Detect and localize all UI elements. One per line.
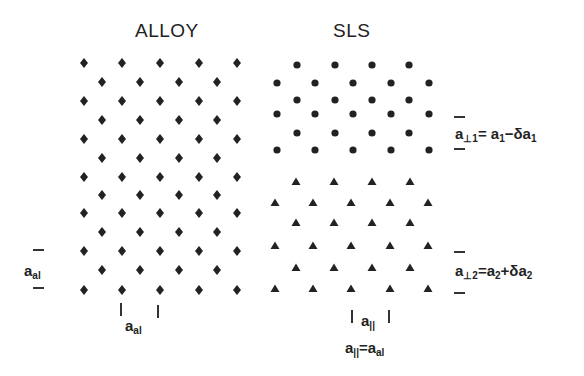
alloy-spacing-right-tick (157, 305, 159, 318)
diamond-atom (233, 96, 241, 106)
circle-atom (368, 129, 375, 136)
diamond-atom (98, 77, 106, 87)
diamond-atom (175, 227, 183, 237)
alloy-spacing-label: aal (125, 318, 142, 336)
triangle-atom (424, 285, 433, 293)
diamond-atom (213, 115, 221, 125)
sls-spacing-left-tick (351, 310, 353, 323)
diamond-atom (175, 77, 183, 87)
diamond-atom (175, 115, 183, 125)
circle-atom (387, 110, 394, 117)
circle-atom (368, 96, 375, 103)
diamond-atom (156, 208, 164, 218)
triangle-atom (347, 199, 356, 207)
diamond-atom (213, 153, 221, 163)
triangle-atom (309, 285, 318, 293)
triangle-atom (309, 199, 318, 207)
triangle-atom (406, 264, 415, 272)
diamond-atom (118, 246, 126, 256)
diamond-atom (118, 208, 126, 218)
triangle-atom (271, 199, 280, 207)
triangle-atom (386, 285, 395, 293)
triangle-atom (368, 178, 377, 186)
triangle-atom (386, 199, 395, 207)
diamond-atom (195, 58, 203, 68)
diamond-atom (98, 115, 106, 125)
circle-atom (349, 110, 356, 117)
diamond-atom (156, 246, 164, 256)
diamond-atom (195, 246, 203, 256)
circle-atom (349, 79, 356, 86)
circle-atom (311, 146, 318, 153)
circle-atom (293, 129, 300, 136)
diamond-atom (98, 153, 106, 163)
diamond-atom (156, 96, 164, 106)
triangle-atom (330, 264, 339, 272)
diamond-atom (80, 96, 88, 106)
diamond-atom (136, 77, 144, 87)
perp2-bottom-tick (454, 292, 465, 294)
triangle-atom (368, 264, 377, 272)
sls-title: SLS (333, 21, 370, 40)
diamond-atom (80, 208, 88, 218)
diamond-atom (195, 134, 203, 144)
alloy-lattice (80, 58, 241, 295)
diamond-atom (136, 153, 144, 163)
diamond-atom (98, 227, 106, 237)
triangle-atom (271, 242, 280, 250)
triangle-atom (386, 242, 395, 250)
left-spacing-top-tick (33, 249, 44, 251)
circle-atom (311, 79, 318, 86)
diamond-atom (118, 58, 126, 68)
diamond-atom (195, 208, 203, 218)
left-spacing-label: aal (24, 263, 41, 281)
circle-atom (405, 96, 412, 103)
diamond-atom (213, 190, 221, 200)
diamond-atom (175, 153, 183, 163)
triangle-atom (347, 285, 356, 293)
circle-atom (273, 146, 280, 153)
diamond-atom (233, 208, 241, 218)
circle-atom (293, 96, 300, 103)
lattice-diagram (0, 0, 584, 376)
diamond-atom (136, 265, 144, 275)
triangle-atom (271, 285, 280, 293)
diamond-atom (80, 134, 88, 144)
circle-atom (273, 110, 280, 117)
circle-atom (387, 79, 394, 86)
triangle-atom (406, 219, 415, 227)
diamond-atom (195, 285, 203, 295)
left-spacing-bottom-tick (33, 287, 44, 289)
sls-circle-lattice (273, 61, 432, 153)
perp1-top-tick (454, 148, 465, 150)
diamond-atom (118, 172, 126, 182)
sls-spacing-right-tick (388, 310, 390, 323)
circle-atom (405, 61, 412, 68)
perp1-equation: a⊥1= a1−δa1 (455, 126, 537, 144)
diamond-atom (80, 246, 88, 256)
triangle-atom (292, 219, 301, 227)
perp1-bottom-tick (454, 116, 465, 118)
diamond-atom (118, 96, 126, 106)
circle-atom (293, 61, 300, 68)
triangle-atom (309, 242, 318, 250)
circle-atom (349, 146, 356, 153)
perp2-equation: a⊥2=a2+δa2 (455, 263, 532, 281)
circle-atom (311, 110, 318, 117)
diamond-atom (233, 172, 241, 182)
circle-atom (425, 79, 432, 86)
triangle-atom (424, 242, 433, 250)
diamond-atom (233, 58, 241, 68)
diamond-atom (213, 227, 221, 237)
diamond-atom (213, 77, 221, 87)
diamond-atom (136, 190, 144, 200)
diamond-atom (98, 265, 106, 275)
diamond-atom (118, 285, 126, 295)
circle-atom (425, 110, 432, 117)
diamond-atom (80, 58, 88, 68)
circle-atom (331, 96, 338, 103)
circle-atom (331, 61, 338, 68)
diamond-atom (175, 265, 183, 275)
triangle-atom (347, 242, 356, 250)
circle-atom (425, 146, 432, 153)
